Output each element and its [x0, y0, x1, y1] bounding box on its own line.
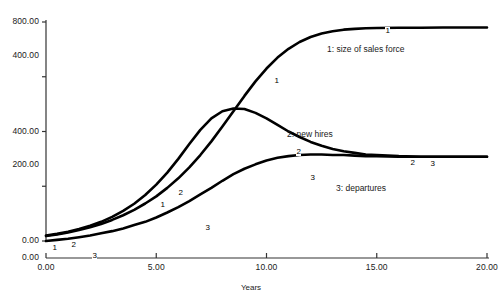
series-annotation-2: 2: new hires	[287, 129, 333, 139]
series-line-1	[46, 27, 487, 236]
series-marker-1: 1	[52, 244, 57, 252]
y-axis-tick-label-inner: 0.00	[0, 252, 39, 262]
x-axis-ticks	[46, 253, 487, 258]
series-marker-3: 3	[430, 160, 435, 168]
series-marker-2: 2	[410, 159, 415, 167]
series-annotation-3: 3: departures	[336, 183, 386, 193]
series-marker-3: 3	[310, 174, 315, 182]
series-marker-1: 1	[385, 27, 390, 35]
series-marker-3: 3	[92, 252, 97, 260]
series-marker-3: 3	[205, 224, 210, 232]
chart-plot-area	[0, 0, 502, 303]
x-axis-title: Years	[0, 283, 502, 292]
x-axis-tick-label: 10.00	[237, 262, 297, 272]
series-annotation-1: 1: size of sales force	[327, 44, 404, 54]
chart-series-group	[46, 27, 487, 241]
x-axis-tick-label: 15.00	[347, 262, 407, 272]
y-axis-tick-label-outer: 800.00	[0, 16, 39, 26]
chart-container: 800.00400.000.00 400.00200.000.00 0.005.…	[0, 0, 502, 303]
x-axis-tick-label: 20.00	[457, 262, 502, 272]
series-marker-2: 2	[296, 148, 301, 156]
series-marker-2: 2	[71, 241, 76, 249]
y-axis-tick-label-inner: 400.00	[0, 50, 39, 60]
x-axis-tick-label: 0.00	[16, 262, 76, 272]
series-line-3	[46, 155, 487, 242]
x-axis-tick-label: 5.00	[126, 262, 186, 272]
y-axis-tick-label-outer: 400.00	[0, 126, 39, 136]
series-line-2	[46, 109, 487, 236]
series-marker-1: 1	[274, 77, 279, 85]
y-axis-tick-label-inner: 200.00	[0, 159, 39, 169]
series-marker-1: 1	[160, 201, 165, 209]
y-axis-tick-label-outer: 0.00	[0, 235, 39, 245]
series-marker-2: 2	[178, 189, 183, 197]
